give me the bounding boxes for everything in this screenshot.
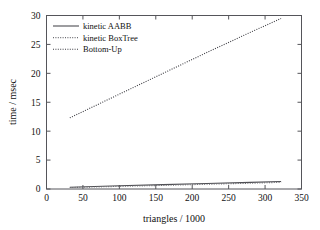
x-axis-title: triangles / 1000: [143, 213, 205, 224]
y-tick-label: 15: [31, 98, 41, 108]
y-tick-label: 20: [31, 69, 41, 79]
y-tick-label: 5: [36, 155, 41, 165]
x-tick-label: 0: [44, 193, 49, 203]
x-tick-label: 250: [222, 193, 237, 203]
x-tick-label: 100: [112, 193, 127, 203]
x-tick-label: 350: [294, 193, 309, 203]
legend-label-0: kinetic AABB: [83, 21, 132, 31]
y-tick-label: 10: [31, 127, 41, 137]
line-chart: 051015202530 050100150200250300350 kinet…: [0, 0, 320, 230]
legend-label-2: Bottom-Up: [83, 44, 122, 54]
legend-label-1: kinetic BoxTree: [83, 33, 138, 43]
y-tick-label: 0: [36, 184, 41, 194]
x-tick-label: 150: [149, 193, 164, 203]
x-tick-label: 300: [258, 193, 273, 203]
chart-figure: 051015202530 050100150200250300350 kinet…: [0, 0, 320, 230]
y-tick-label: 30: [31, 11, 41, 21]
y-tick-label: 25: [31, 40, 41, 50]
y-axis-title: time / msec: [7, 78, 18, 125]
x-tick-label: 200: [185, 193, 200, 203]
x-tick-label: 50: [78, 193, 88, 203]
